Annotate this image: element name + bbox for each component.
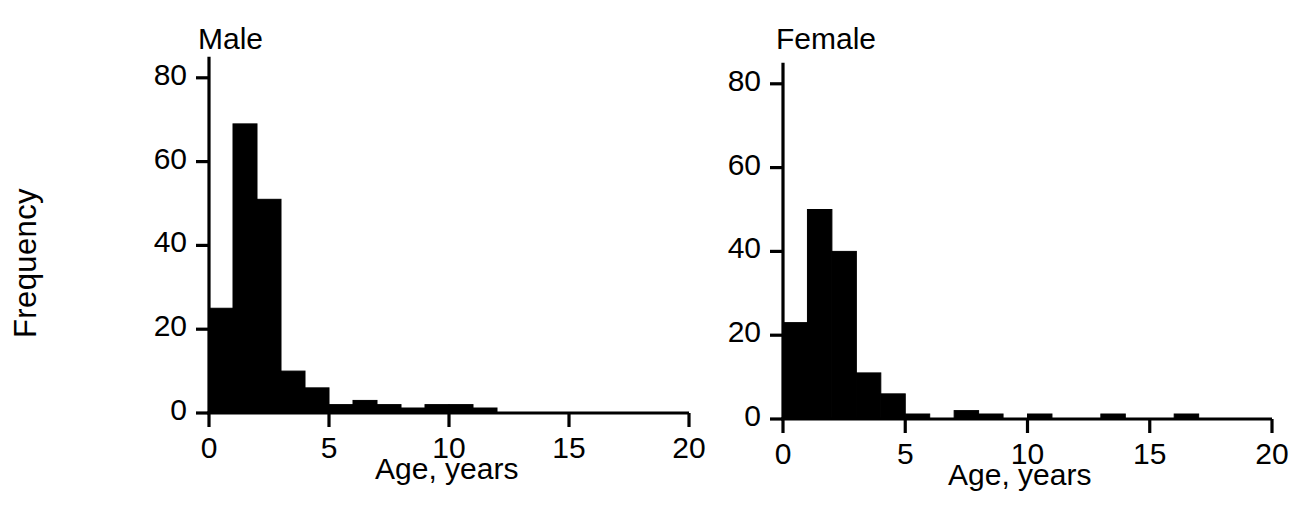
histogram-bar: [954, 411, 978, 419]
histogram-bar: [1101, 414, 1125, 419]
histogram-bar: [449, 405, 473, 413]
histogram-bar: [329, 405, 353, 413]
histogram-bar: [281, 371, 305, 413]
histogram-figure: Frequency Male Age, years 02040608005101…: [0, 0, 1310, 514]
histogram-bar: [856, 373, 880, 419]
y-tick-label: 40: [109, 225, 187, 259]
panel-female: Female Age, years 02040608005101520: [698, 0, 1310, 514]
x-tick-label: 15: [1110, 437, 1190, 471]
y-tick-label: 0: [109, 393, 187, 427]
histogram-bar: [233, 124, 257, 413]
histogram-bar: [377, 405, 401, 413]
y-tick-label: 20: [683, 315, 761, 349]
histogram-bar: [1174, 414, 1198, 419]
x-tick-label: 0: [169, 431, 249, 465]
y-axis-label-text: Frequency: [8, 188, 44, 338]
histogram-bars: [209, 124, 497, 413]
y-tick-label: 20: [109, 309, 187, 343]
histogram-bar: [353, 400, 377, 413]
histogram-bar: [979, 414, 1003, 419]
histogram-bar: [1028, 414, 1052, 419]
y-tick-label: 80: [683, 64, 761, 98]
histogram-bar: [473, 408, 497, 413]
histogram-bar: [807, 210, 831, 420]
histogram-bar: [881, 394, 905, 419]
x-tick-label: 10: [409, 431, 489, 465]
y-tick-label: 60: [683, 148, 761, 182]
x-tick-label: 0: [743, 437, 823, 471]
panel-male: Male Age, years 02040608005101520: [130, 0, 730, 514]
x-tick-label: 5: [289, 431, 369, 465]
x-tick-label: 5: [865, 437, 945, 471]
histogram-bar: [401, 408, 425, 413]
histogram-bars: [783, 210, 1199, 420]
histogram-bar: [905, 414, 929, 419]
x-tick-label: 15: [529, 431, 609, 465]
y-tick-label: 40: [683, 231, 761, 265]
histogram-bar: [257, 199, 281, 413]
histogram-bar: [832, 251, 856, 419]
histogram-bar: [209, 308, 233, 413]
x-tick-label: 10: [988, 437, 1068, 471]
y-tick-label: 0: [683, 399, 761, 433]
y-tick-label: 80: [109, 58, 187, 92]
histogram-bar: [783, 323, 807, 419]
y-tick-label: 60: [109, 142, 187, 176]
histogram-bar: [425, 405, 449, 413]
histogram-bar: [305, 388, 329, 413]
shared-y-axis-label: Frequency: [6, 118, 46, 408]
x-tick-label: 20: [1232, 437, 1310, 471]
